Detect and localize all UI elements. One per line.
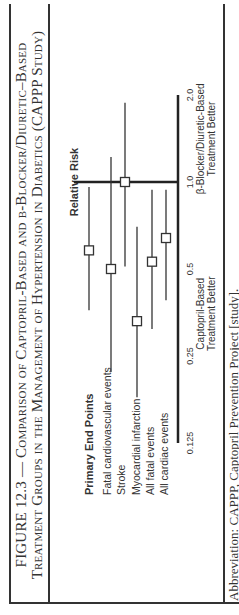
point-estimate-marker bbox=[133, 317, 142, 326]
row-labels: Fatal cardiovascular eventsStrokeMyocard… bbox=[101, 367, 170, 495]
axis-annotations: Captopril-BasedTreatment Betterβ-Blocker… bbox=[195, 83, 217, 351]
row-label: All fatal events bbox=[144, 427, 156, 495]
ci-row bbox=[85, 187, 94, 310]
point-estimate-marker bbox=[162, 234, 171, 243]
row-label: All cardiac events bbox=[158, 413, 170, 495]
rotated-figure: FIGURE 12.3 — Comparison of Captopril-Ba… bbox=[0, 0, 239, 615]
ci-row bbox=[121, 103, 130, 267]
point-estimate-marker bbox=[121, 178, 130, 187]
ci-row bbox=[162, 190, 171, 300]
left-annotation: Treatment Better bbox=[206, 276, 217, 351]
group-header: Primary End Points bbox=[83, 394, 95, 495]
right-annotation: Treatment Better bbox=[206, 101, 217, 176]
forest-plot: Relative Risk Primary End Points Fatal c… bbox=[0, 0, 239, 615]
caption: Abbreviation: CAPPP, Captopril Preventio… bbox=[226, 289, 239, 601]
tick-label: 2.0 bbox=[185, 89, 195, 102]
tick-labels: 0.1250.250.51.02.0 bbox=[185, 89, 195, 455]
ci-row bbox=[148, 190, 157, 329]
left-annotation: Captopril-Based bbox=[195, 278, 206, 350]
right-annotation: β-Blocker/Diuretic-Based bbox=[195, 83, 206, 194]
tick-label: 0.125 bbox=[185, 432, 195, 455]
point-estimate-marker bbox=[148, 257, 157, 266]
tick-label: 0.5 bbox=[185, 263, 195, 276]
row-label: Stroke bbox=[115, 464, 127, 495]
tick-label: 1.0 bbox=[185, 176, 195, 189]
row-label: Myocardial infarction bbox=[130, 399, 142, 495]
row-label: Fatal cardiovascular events bbox=[101, 367, 113, 495]
ci-row bbox=[133, 227, 142, 397]
confidence-intervals bbox=[85, 103, 171, 397]
ci-row bbox=[107, 157, 116, 372]
point-estimate-marker bbox=[85, 246, 94, 255]
tick-label: 0.25 bbox=[185, 347, 195, 365]
point-estimate-marker bbox=[107, 265, 116, 274]
